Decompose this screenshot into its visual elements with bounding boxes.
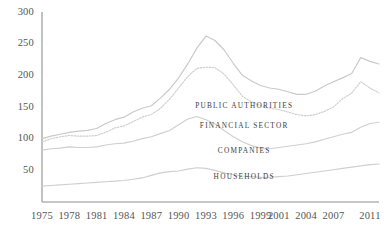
series-label-companies: COMPANIES [218,147,271,154]
x-tick-label-2011: 2011 [359,211,380,222]
x-tick-label-1993: 1993 [195,211,217,222]
series-label-public-authorities: PUBLIC AUTHORITIES [195,102,293,109]
chart-plot-area [0,0,390,233]
y-tick-label-50: 50 [4,165,34,176]
y-tick-label-300: 300 [4,7,34,18]
series-lines-group [42,36,379,186]
x-tick-label-2001: 2001 [268,211,290,222]
y-tick-label-150: 150 [4,102,34,113]
y-tick-label-100: 100 [4,133,34,144]
x-tick-label-1984: 1984 [113,211,135,222]
line-chart: 30025020015010050 1975197819811984198719… [0,0,390,233]
x-tick-label-2004: 2004 [295,211,317,222]
y-tick-label-250: 250 [4,38,34,49]
x-tick-label-1987: 1987 [140,211,162,222]
y-tick-label-200: 200 [4,70,34,81]
series-label-households: HOUSEHOLDS [214,173,275,180]
x-tick-label-2007: 2007 [323,211,345,222]
x-tick-label-1975: 1975 [31,211,53,222]
x-tick-label-1978: 1978 [58,211,80,222]
series-line-3 [42,164,379,186]
x-tick-label-1990: 1990 [168,211,190,222]
x-tick-label-1996: 1996 [222,211,244,222]
x-tick-label-1981: 1981 [86,211,108,222]
series-label-financial-sector: FINANCIAL SECTOR [200,122,289,129]
